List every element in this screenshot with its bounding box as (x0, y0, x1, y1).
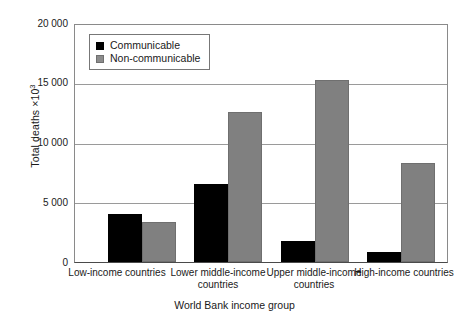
plot-area: Communicable Non-communicable (74, 24, 448, 263)
bar-communicable-high-income (367, 252, 401, 262)
bar-communicable-upper-middle-income (281, 241, 315, 262)
legend-swatch-communicable-icon (96, 42, 104, 50)
bar-noncommunicable-low-income (142, 222, 176, 262)
legend-label-noncommunicable: Non-communicable (110, 52, 200, 65)
y-tick-label-10000: 10 000 (37, 138, 68, 148)
x-axis-title: World Bank income group (0, 299, 469, 311)
y-axis-title-exponent: 3 (28, 84, 37, 88)
legend-label-communicable: Communicable (110, 39, 180, 52)
bar-chart: Total deaths ×103 20 000 15 000 10 000 5… (0, 0, 469, 324)
bar-noncommunicable-high-income (401, 163, 435, 262)
bar-communicable-lower-middle-income (194, 184, 228, 262)
y-tick-label-20000: 20 000 (37, 19, 68, 29)
legend-item-communicable: Communicable (96, 39, 200, 52)
x-tick-label-high-income: High-income countries (340, 267, 468, 279)
bar-communicable-low-income (108, 214, 142, 262)
legend-item-noncommunicable: Non-communicable (96, 52, 200, 65)
legend: Communicable Non-communicable (89, 34, 210, 70)
y-axis-title: Total deaths ×103 (29, 46, 41, 206)
y-tick-label-5000: 5 000 (43, 198, 68, 208)
y-tick-label-15000: 15 000 (37, 78, 68, 88)
gridline-15000 (75, 84, 447, 85)
bar-noncommunicable-lower-middle-income (228, 112, 262, 262)
legend-swatch-noncommunicable-icon (96, 55, 104, 63)
bar-noncommunicable-upper-middle-income (315, 80, 349, 262)
y-axis-title-text: Total deaths ×10 (29, 89, 41, 168)
